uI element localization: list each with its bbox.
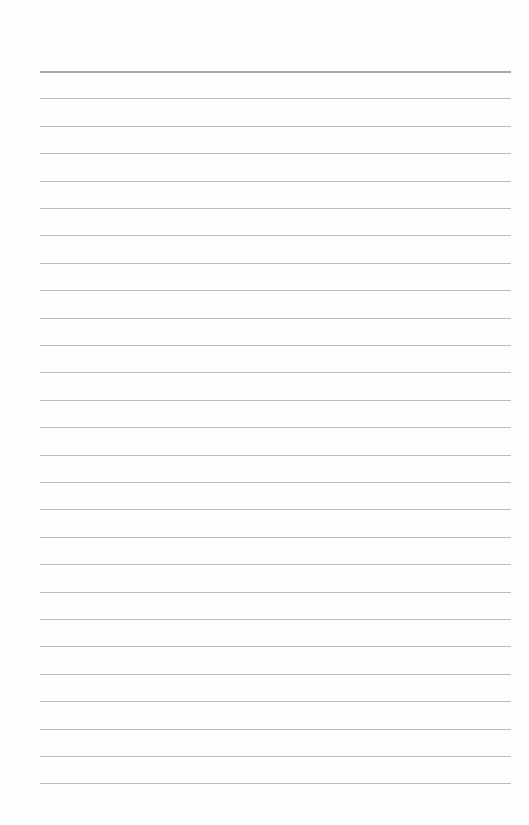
ruled-line bbox=[40, 783, 511, 784]
ruled-line bbox=[40, 126, 511, 127]
ruled-line bbox=[40, 756, 511, 757]
ruled-line bbox=[40, 455, 511, 456]
ruled-line bbox=[40, 181, 511, 182]
ruled-line bbox=[40, 290, 511, 291]
ruled-line bbox=[40, 537, 511, 538]
ruled-line bbox=[40, 372, 511, 373]
ruled-line bbox=[40, 345, 511, 346]
ruled-line bbox=[40, 235, 511, 236]
ruled-line bbox=[40, 592, 511, 593]
ruled-line bbox=[40, 71, 511, 73]
ruled-line bbox=[40, 427, 511, 428]
ruled-line bbox=[40, 674, 511, 675]
ruled-line bbox=[40, 729, 511, 730]
ruled-line bbox=[40, 98, 511, 99]
ruled-line bbox=[40, 646, 511, 647]
ruled-line bbox=[40, 509, 511, 510]
ruled-line bbox=[40, 318, 511, 319]
ruled-line bbox=[40, 564, 511, 565]
ruled-line bbox=[40, 619, 511, 620]
ruled-line bbox=[40, 701, 511, 702]
ruled-line bbox=[40, 400, 511, 401]
ruled-line bbox=[40, 263, 511, 264]
ruled-line bbox=[40, 208, 511, 209]
ruled-line bbox=[40, 153, 511, 154]
ruled-line bbox=[40, 482, 511, 483]
lined-paper-page bbox=[0, 0, 529, 825]
